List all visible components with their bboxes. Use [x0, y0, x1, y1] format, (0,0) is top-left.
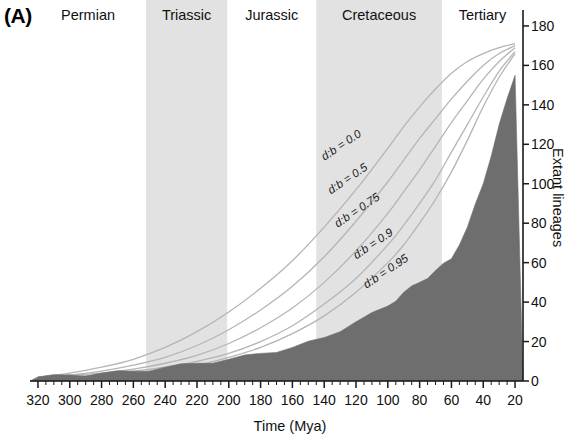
y-axis-title: Extant lineages	[550, 148, 566, 247]
x-tick-label-100: 100	[376, 392, 399, 408]
y-tick-label-60: 60	[531, 255, 547, 271]
x-tick-label-320: 320	[26, 392, 49, 408]
x-tick-label-40: 40	[475, 392, 491, 408]
x-tick-label-60: 60	[444, 392, 460, 408]
x-tick-label-260: 260	[122, 392, 145, 408]
y-tick-label-140: 140	[531, 97, 554, 113]
y-tick-label-80: 80	[531, 215, 547, 231]
x-axis-title: Time (Mya)	[0, 418, 580, 434]
observed-lineages-area	[30, 75, 523, 381]
lineage-area-observed	[30, 75, 523, 381]
x-tick-label-200: 200	[217, 392, 240, 408]
x-tick-label-220: 220	[185, 392, 208, 408]
y-tick-label-40: 40	[531, 294, 547, 310]
y-tick-label-180: 180	[531, 18, 554, 34]
x-tick-label-80: 80	[412, 392, 428, 408]
x-tick-label-160: 160	[281, 392, 304, 408]
chart-plot-area: d:b = 0.0d:b = 0.5d:b = 0.75d:b = 0.9d:b…	[0, 0, 580, 443]
x-tick-label-20: 20	[507, 392, 523, 408]
period-band-triassic	[146, 0, 227, 381]
y-tick-label-160: 160	[531, 57, 554, 73]
figure-panel-a: (A) Permian Triassic Jurassic Cretaceous…	[0, 0, 580, 443]
x-tick-label-120: 120	[344, 392, 367, 408]
x-tick-label-240: 240	[153, 392, 176, 408]
x-tick-label-300: 300	[58, 392, 81, 408]
x-tick-label-280: 280	[90, 392, 113, 408]
x-tick-label-180: 180	[249, 392, 272, 408]
y-tick-label-20: 20	[531, 334, 547, 350]
y-tick-label-0: 0	[531, 373, 539, 389]
x-tick-label-140: 140	[313, 392, 336, 408]
